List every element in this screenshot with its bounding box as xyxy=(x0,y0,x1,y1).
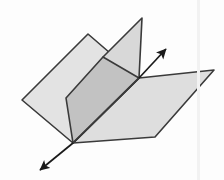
arrow-down-left xyxy=(40,143,73,170)
figure-container xyxy=(0,0,224,180)
arrow-up-right xyxy=(139,49,166,78)
plane-intersection-diagram xyxy=(0,0,224,180)
